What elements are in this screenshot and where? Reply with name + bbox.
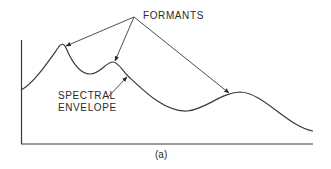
- spectral-envelope-curve: [21, 44, 313, 131]
- figure-caption: (a): [155, 149, 167, 160]
- spectral-envelope-diagram: FORMANTS SPECTRAL ENVELOPE (a): [0, 0, 331, 169]
- spectral-label-line1: SPECTRAL: [58, 90, 116, 101]
- spectral-label-line2: ENVELOPE: [58, 102, 117, 113]
- formant-arrow-3: [134, 17, 229, 93]
- formants-label: FORMANTS: [143, 10, 204, 21]
